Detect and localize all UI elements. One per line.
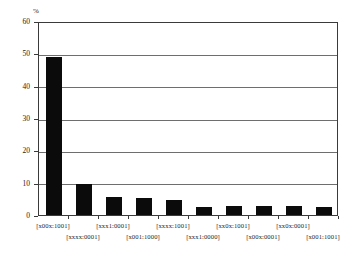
x-axis-category-label: [xxx1:0001] [96,222,130,230]
x-axis-tick-mark [68,216,69,219]
x-axis-tick-mark [278,216,279,219]
y-axis-tick-label: 30 [0,115,30,123]
bar [166,200,182,215]
x-axis-category-label: [x00x:1001] [36,222,70,230]
y-axis-tick-label: 20 [0,147,30,155]
x-axis-tick-mark [248,216,249,219]
x-axis-tick-mark [218,216,219,219]
bar [226,206,242,215]
bar [316,207,332,215]
x-axis-tick-mark [158,216,159,219]
bar [196,207,212,215]
x-axis-tick-mark [98,216,99,219]
bar [46,57,62,215]
x-axis-category-label: [xx0x:0001] [276,222,310,230]
y-axis-tick-label: 40 [0,83,30,91]
bar [286,206,302,215]
x-axis-tick-mark [308,216,309,219]
y-axis-tick-label: 60 [0,18,30,26]
y-axis-tick-label: 0 [0,212,30,220]
bar [106,197,122,215]
x-axis-tick-mark [338,216,339,219]
y-axis-tick-label: 50 [0,50,30,58]
gridline [39,152,337,153]
gridline [39,87,337,88]
bar [136,198,152,215]
plot-area [38,22,338,216]
x-axis-category-label: [x001:1001] [306,233,340,241]
bar [256,206,272,215]
x-axis-category-label: [xx0x:1001] [216,222,250,230]
x-axis-category-label: [xxxx:0001] [66,233,100,241]
x-axis-category-label: [xxx1:0000] [186,233,220,241]
x-axis-tick-mark [188,216,189,219]
y-axis-unit-label: % [33,7,39,15]
gridline [39,120,337,121]
bar-chart: % 0102030405060 [x00x:1001][xxxx:0001][x… [0,0,349,253]
bar [76,184,92,215]
x-axis-category-label: [x00x:0001] [246,233,280,241]
y-axis-tick-mark [34,216,38,217]
x-axis-tick-mark [128,216,129,219]
gridline [39,55,337,56]
x-axis-category-label: [xxxx:1001] [156,222,190,230]
y-axis-tick-label: 10 [0,180,30,188]
x-axis-category-label: [x001:1000] [126,233,160,241]
